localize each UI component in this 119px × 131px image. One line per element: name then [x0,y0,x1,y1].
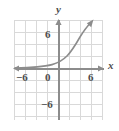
exponential-graph-figure: −6 0 6 6 −6 x y [0,0,119,131]
coordinate-plane-svg [0,0,119,131]
origin-tick-label: 0 [45,72,51,83]
exponential-curve [15,20,94,69]
x-axis-name: x [108,60,114,71]
y-axis-tick-label-positive-6: 6 [45,29,51,40]
y-axis-name: y [56,4,61,15]
y-axis-tick-label-negative-6: −6 [41,99,53,110]
x-axis-tick-label-positive-6: 6 [88,72,94,83]
x-axis-tick-label-negative-6: −6 [16,72,28,83]
